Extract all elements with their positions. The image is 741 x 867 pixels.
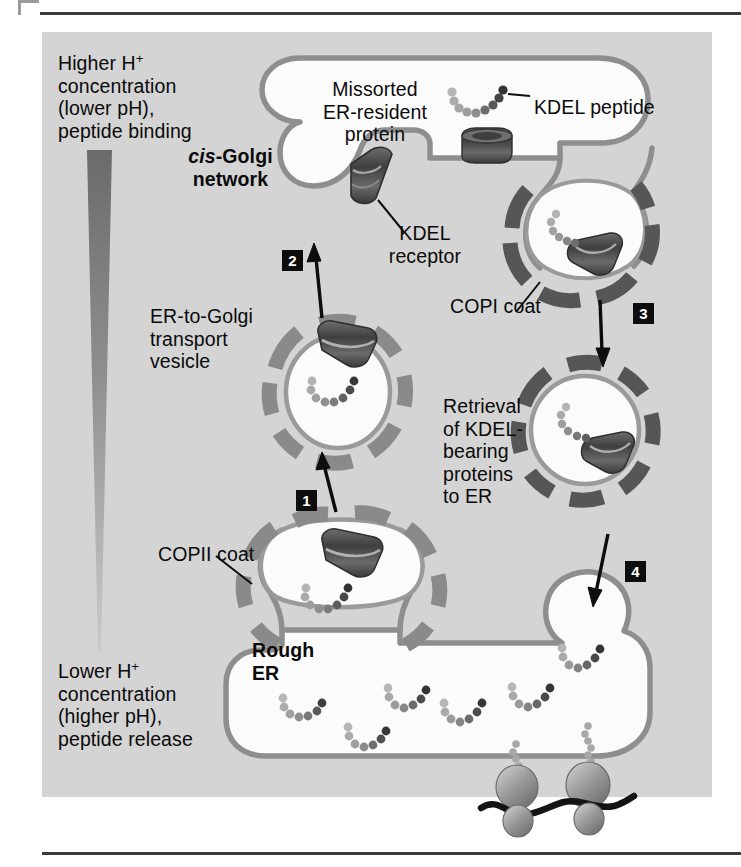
kdel-peptide-label: KDEL peptide xyxy=(534,96,694,119)
higher-h-label: Higher H+concentration (lower pH), pepti… xyxy=(58,52,268,142)
arrow-step-3 xyxy=(600,300,602,352)
lower-h-superscript: + xyxy=(131,659,139,674)
step-badge-3: 3 xyxy=(633,303,654,324)
retrieval-label: Retrieval of KDEL- bearing proteins to E… xyxy=(443,395,568,508)
higher-h-rest: concentration (lower pH), peptide bindin… xyxy=(58,75,192,142)
arrow-step-2 xyxy=(316,258,322,318)
step-badge-4: 4 xyxy=(625,561,646,582)
lower-h-line1: Lower H xyxy=(58,660,131,682)
step-badge-1: 1 xyxy=(296,490,317,511)
arrow-step-1 xyxy=(324,465,336,512)
higher-h-superscript: + xyxy=(136,51,144,66)
higher-h-line1: Higher H xyxy=(58,52,136,74)
figure-root: Higher H+concentration (lower pH), pepti… xyxy=(0,0,741,867)
missorted-protein-label: Missorted ER-resident protein xyxy=(300,78,450,146)
lower-h-rest: concentration (higher pH), peptide relea… xyxy=(58,683,193,750)
step-badge-2: 2 xyxy=(282,250,303,271)
cis-golgi-network-label: cis-Golgi network xyxy=(168,145,293,190)
er-to-golgi-vesicle-label: ER-to-Golgi transport vesicle xyxy=(150,305,300,373)
copii-coat-label: COPII coat xyxy=(158,543,308,566)
ribosome-small-subunit-1 xyxy=(503,805,533,837)
kdel-receptor-golgi-top xyxy=(462,128,512,163)
ribosome-small-subunit-2 xyxy=(574,803,604,835)
rough-er-label: Rough ER xyxy=(252,639,332,684)
copi-coat-label: COPI coat xyxy=(450,295,590,318)
ph-gradient-wedge xyxy=(87,150,112,652)
cis-golgi-italic: cis xyxy=(188,145,215,167)
kdel-receptor-label: KDEL receptor xyxy=(370,222,480,267)
ribosome-large-subunit-1 xyxy=(496,765,538,809)
lower-h-label: Lower H+concentration (higher pH), pepti… xyxy=(58,660,278,750)
